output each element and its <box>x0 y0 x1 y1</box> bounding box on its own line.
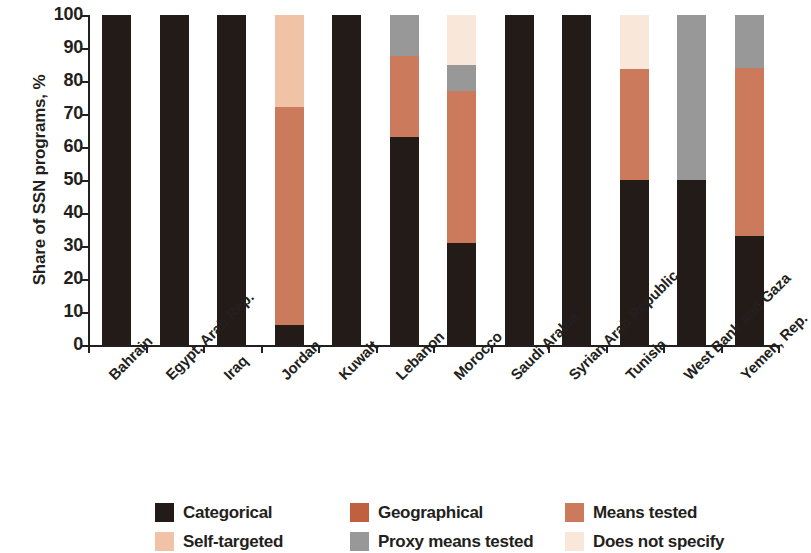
y-tick-label: 40 <box>64 202 83 223</box>
bar-segment <box>620 69 649 180</box>
legend-item-geographical[interactable]: Geographical <box>350 503 565 523</box>
bar-segment <box>275 15 304 107</box>
legend-item-does-not-specify[interactable]: Does not specify <box>565 532 755 552</box>
bar-segment <box>677 180 706 345</box>
bar-segment <box>677 15 706 180</box>
bar-jordan[interactable] <box>275 15 304 345</box>
legend-item-means-tested[interactable]: Means tested <box>565 503 755 523</box>
bar-segment <box>332 15 361 345</box>
bar-egypt-arab-rep[interactable] <box>160 15 189 345</box>
legend-item-proxy-means-tested[interactable]: Proxy means tested <box>350 532 565 552</box>
bar-saudi-arabia[interactable] <box>505 15 534 345</box>
bar-segment <box>562 15 591 345</box>
y-tick-label: 100 <box>54 4 83 25</box>
legend: CategoricalGeographicalMeans testedSelf-… <box>155 498 755 553</box>
y-tick-label: 20 <box>64 268 83 289</box>
bar-segment <box>390 56 419 137</box>
y-tick-label: 10 <box>64 301 83 322</box>
legend-label: Does not specify <box>593 532 724 552</box>
legend-label: Proxy means tested <box>378 532 533 552</box>
bar-syrian-arab-republic[interactable] <box>562 15 591 345</box>
y-tick-label: 0 <box>73 334 83 355</box>
legend-swatch-icon <box>155 503 174 522</box>
bar-segment <box>447 65 476 91</box>
legend-swatch-icon <box>565 532 584 551</box>
bar-segment <box>505 15 534 345</box>
bar-segment <box>390 15 419 56</box>
y-axis-title: Share of SSN programs, % <box>30 30 50 330</box>
x-tick-mark <box>261 345 263 353</box>
bar-kuwait[interactable] <box>332 15 361 345</box>
bar-west-bank-and-gaza[interactable] <box>677 15 706 345</box>
legend-item-self-targeted[interactable]: Self-targeted <box>155 532 350 552</box>
y-tick-label: 50 <box>64 169 83 190</box>
bar-segment <box>447 91 476 243</box>
y-tick-label: 80 <box>64 70 83 91</box>
bar-segment <box>160 15 189 345</box>
legend-swatch-icon <box>565 503 584 522</box>
legend-item-categorical[interactable]: Categorical <box>155 503 350 523</box>
legend-swatch-icon <box>350 503 369 522</box>
y-tick-label: 70 <box>64 103 83 124</box>
bar-segment <box>620 15 649 69</box>
bar-segment <box>102 15 131 345</box>
legend-label: Categorical <box>183 503 272 523</box>
x-axis-label: Iraq <box>220 352 251 383</box>
bar-bahrain[interactable] <box>102 15 131 345</box>
bar-segment <box>735 15 764 68</box>
legend-swatch-icon <box>155 532 174 551</box>
plot-area: 0102030405060708090100 BahrainEgypt, Ara… <box>88 15 778 345</box>
legend-label: Means tested <box>593 503 697 523</box>
bar-segment <box>275 107 304 325</box>
bar-segment <box>735 68 764 236</box>
bar-morocco[interactable] <box>447 15 476 345</box>
y-tick-label: 60 <box>64 136 83 157</box>
bar-lebanon[interactable] <box>390 15 419 345</box>
legend-label: Geographical <box>378 503 483 523</box>
bar-segment <box>275 325 304 345</box>
y-axis-line <box>88 15 90 346</box>
legend-swatch-icon <box>350 532 369 551</box>
legend-label: Self-targeted <box>183 532 283 552</box>
bar-segment <box>447 15 476 65</box>
bar-segment <box>390 137 419 345</box>
bar-segment <box>447 243 476 345</box>
y-tick-label: 30 <box>64 235 83 256</box>
y-tick-label: 90 <box>64 37 83 58</box>
x-tick-mark <box>88 345 90 353</box>
